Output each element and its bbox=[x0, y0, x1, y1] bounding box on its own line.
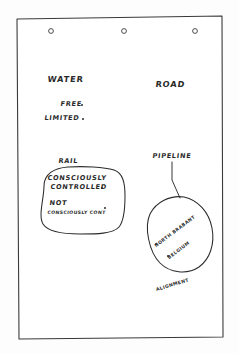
punch-hole-right bbox=[193, 29, 198, 34]
label-water-item-free: FREE bbox=[60, 101, 82, 108]
label-rail-item1-line2: CONTROLLED bbox=[50, 184, 107, 191]
sheet-drawing-layer bbox=[0, 0, 239, 353]
punch-hole-left bbox=[49, 29, 54, 34]
bullet-pipeline-north-brabant bbox=[155, 243, 157, 245]
bullet-pipeline-belgium bbox=[167, 255, 169, 257]
label-rail-item1-line1: CONSCIOUSLY bbox=[47, 175, 107, 182]
handwritten-sheet: WATER FREE LIMITED ROAD RAIL CONSCIOUSLY… bbox=[0, 0, 239, 353]
label-pipeline: PIPELINE bbox=[152, 153, 192, 160]
bullet-water-free bbox=[81, 104, 83, 106]
bullet-water-limited bbox=[82, 118, 84, 120]
label-rail-item2-line1: NOT bbox=[49, 200, 68, 207]
label-water-item-limited: LIMITED bbox=[44, 115, 80, 122]
label-rail: RAIL bbox=[58, 158, 78, 165]
bullet-rail-item1 bbox=[101, 187, 103, 189]
bullet-rail-item2 bbox=[104, 207, 106, 209]
label-water: WATER bbox=[47, 75, 84, 83]
punch-hole-center bbox=[122, 29, 127, 34]
label-rail-item2-line2: CONSCIOUSLY CONT bbox=[47, 211, 106, 216]
label-road: ROAD bbox=[155, 80, 186, 88]
